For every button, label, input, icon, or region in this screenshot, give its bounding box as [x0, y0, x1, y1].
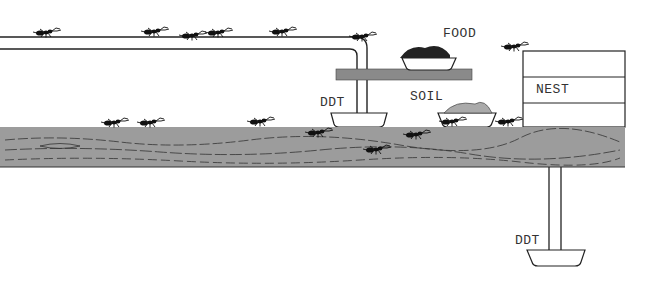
ddt-label-upper: DDT: [320, 95, 345, 110]
ant-ddt-diagram: FOOD SOIL NEST DDT DDT: [0, 0, 649, 289]
upper-pipe: [0, 37, 367, 118]
shelf-board: [336, 69, 472, 80]
soil-label: SOIL: [410, 89, 443, 104]
food-label: FOOD: [443, 26, 476, 41]
ddt-dish-lower: [527, 250, 585, 266]
food-dish: [400, 46, 456, 70]
ddt-label-lower: DDT: [515, 233, 540, 248]
ddt-dish-upper: [331, 113, 387, 127]
lower-post: [549, 167, 561, 250]
nest-label: NEST: [536, 82, 569, 97]
